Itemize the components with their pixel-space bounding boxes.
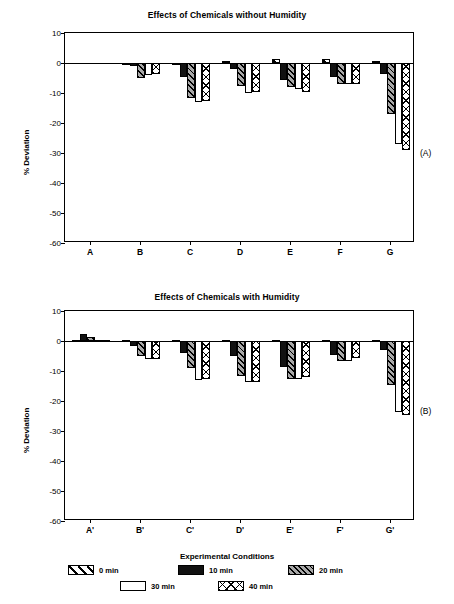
x-tick-label: F	[337, 247, 342, 257]
legend-row: 30 min40 min	[0, 580, 454, 594]
y-tick-label: -20	[49, 397, 61, 406]
y-tick-label: -30	[49, 149, 61, 158]
legend-label: 10 min	[209, 566, 233, 575]
bar-Fprime-0min	[322, 340, 330, 342]
bar-D-10min	[230, 63, 238, 69]
x-tick-mark	[190, 519, 191, 523]
legend-swatch-diagonal-line	[68, 565, 94, 575]
x-tick-mark	[240, 241, 241, 245]
bar-Dprime-0min	[222, 340, 230, 342]
panel-a-plot-area: 100-10-20-30-40-50-60ABCDEFG	[64, 32, 414, 242]
x-tick-mark	[340, 241, 341, 245]
legend-label: 30 min	[151, 582, 175, 591]
bar-Cprime-40min	[202, 341, 210, 379]
bar-E-0min	[272, 59, 280, 64]
bar-Fprime-10min	[330, 341, 338, 355]
y-tick-label: -50	[49, 209, 61, 218]
bar-Cprime-30min	[195, 341, 203, 380]
bar-D-40min	[252, 63, 260, 92]
y-tick-label: -40	[49, 457, 61, 466]
bar-Fprime-40min	[352, 341, 360, 358]
panel-a-y-axis-label: % Deviation	[22, 130, 31, 175]
x-tick-label: D	[237, 247, 243, 257]
bar-Eprime-30min	[295, 341, 303, 379]
y-tick-mark	[61, 123, 65, 124]
bar-Cprime-10min	[180, 341, 188, 353]
x-tick-mark	[140, 519, 141, 523]
bar-B-20min	[137, 63, 145, 78]
bar-Fprime-20min	[337, 341, 345, 361]
y-tick-label: -30	[49, 427, 61, 436]
bar-C-0min	[172, 63, 180, 65]
bar-F-20min	[337, 63, 345, 84]
x-tick-label: G	[387, 247, 394, 257]
y-tick-mark	[61, 33, 65, 34]
panel-b-tag: (B)	[420, 406, 431, 416]
x-tick-mark	[90, 519, 91, 523]
bar-E-20min	[287, 63, 295, 87]
x-tick-mark	[290, 519, 291, 523]
bar-D-20min	[237, 63, 245, 86]
x-tick-label: B	[137, 247, 143, 257]
y-tick-mark	[61, 183, 65, 184]
bar-Eprime-0min	[272, 340, 280, 342]
bar-Fprime-30min	[345, 341, 353, 361]
y-tick-mark	[61, 521, 65, 522]
bar-Dprime-30min	[245, 341, 253, 382]
x-tick-mark	[390, 519, 391, 523]
bar-Dprime-10min	[230, 341, 238, 356]
y-tick-mark	[61, 371, 65, 372]
bar-G-40min	[402, 63, 410, 150]
bar-G-30min	[395, 63, 403, 144]
bar-Aprime-30min	[95, 340, 103, 342]
panel-b-y-axis-label: % Deviation	[22, 408, 31, 453]
bar-Gprime-40min	[402, 341, 410, 415]
bar-Eprime-10min	[280, 341, 288, 367]
legend-swatch-solid-black	[178, 565, 204, 575]
x-tick-label: C'	[186, 525, 194, 535]
x-tick-mark	[90, 241, 91, 245]
panel-a-tag: (A)	[420, 148, 431, 158]
bar-D-30min	[245, 63, 253, 93]
y-tick-label: -60	[49, 239, 61, 248]
bar-Dprime-40min	[252, 341, 260, 382]
bar-C-30min	[195, 63, 203, 102]
y-tick-mark	[61, 491, 65, 492]
legend-item-30min: 30 min	[120, 580, 175, 592]
bar-Bprime-30min	[145, 341, 153, 359]
legend-swatch-cross-hatch	[218, 581, 244, 591]
y-tick-label: 0	[57, 337, 61, 346]
bar-F-40min	[352, 63, 360, 84]
bar-Bprime-40min	[152, 341, 160, 359]
legend-swatch-gray-diagonal	[288, 565, 314, 575]
bar-G-0min	[372, 61, 380, 63]
bar-Eprime-20min	[287, 341, 295, 379]
bar-G-20min	[387, 63, 395, 114]
legend-item-0min: 0 min	[68, 564, 119, 576]
y-tick-mark	[61, 311, 65, 312]
bar-C-40min	[202, 63, 210, 101]
bar-D-0min	[222, 61, 230, 63]
bar-Cprime-20min	[187, 341, 195, 368]
legend: 0 min10 min20 min30 min40 min	[0, 562, 454, 604]
x-tick-mark	[240, 519, 241, 523]
bar-Cprime-0min	[172, 340, 180, 342]
bar-E-40min	[302, 63, 310, 92]
y-tick-mark	[61, 243, 65, 244]
legend-item-10min: 10 min	[178, 564, 233, 576]
bar-E-30min	[295, 63, 303, 89]
bar-F-10min	[330, 63, 338, 77]
y-tick-mark	[61, 93, 65, 94]
y-tick-label: -10	[49, 89, 61, 98]
y-tick-label: -20	[49, 119, 61, 128]
x-tick-mark	[340, 519, 341, 523]
y-tick-label: -10	[49, 367, 61, 376]
bar-Aprime-20min	[87, 337, 95, 341]
bar-Gprime-30min	[395, 341, 403, 412]
x-tick-mark	[190, 241, 191, 245]
bar-Bprime-20min	[137, 341, 145, 356]
x-tick-label: A'	[86, 525, 94, 535]
y-tick-label: 0	[57, 59, 61, 68]
x-tick-label: C	[187, 247, 193, 257]
y-tick-label: 10	[52, 307, 61, 316]
